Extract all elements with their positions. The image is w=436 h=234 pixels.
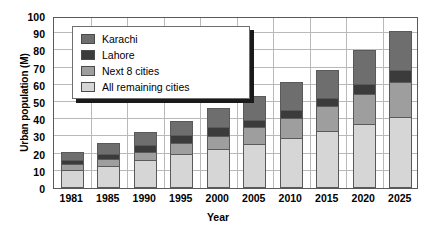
bar-segment	[316, 70, 339, 99]
x-tick-label: 1995	[163, 193, 200, 204]
bar-2025	[389, 31, 412, 188]
legend-item: Next 8 cities	[81, 63, 249, 79]
x-tick-label: 2000	[199, 193, 236, 204]
bar-2015	[316, 70, 339, 188]
y-tick-label: 60	[0, 81, 45, 92]
y-tick-label: 10	[0, 167, 45, 178]
bar-1995	[170, 121, 193, 188]
legend-label: Next 8 cities	[102, 66, 159, 77]
x-tick-label: 2005	[236, 193, 273, 204]
bar-segment	[389, 31, 412, 71]
legend-item: Karachi	[81, 31, 249, 47]
y-tick-label: 50	[0, 98, 45, 109]
bar-segment	[207, 149, 230, 188]
bar-segment	[280, 118, 303, 140]
legend-label: Lahore	[102, 50, 135, 61]
bar-segment	[134, 132, 157, 147]
bar-segment	[389, 117, 412, 188]
bar-2005	[243, 96, 266, 188]
legend-label: All remaining cities	[102, 82, 190, 93]
x-tick-label: 2025	[382, 193, 419, 204]
bar-segment	[134, 160, 157, 188]
y-tick-label: 0	[0, 184, 45, 195]
y-tick-label: 80	[0, 46, 45, 57]
x-tick-label: 1990	[126, 193, 163, 204]
bar-segment	[243, 144, 266, 188]
legend-swatch	[81, 66, 95, 76]
legend-swatch	[81, 50, 95, 60]
x-tick-label: 1985	[90, 193, 127, 204]
bar-segment	[170, 154, 193, 188]
bar-segment	[353, 50, 376, 85]
bar-1985	[97, 143, 120, 188]
bar-segment	[353, 94, 376, 125]
y-tick-label: 70	[0, 64, 45, 75]
y-tick-label: 100	[0, 12, 45, 23]
y-tick-label: 90	[0, 29, 45, 40]
legend-box: KarachiLahoreNext 8 citiesAll remaining …	[72, 26, 250, 99]
bar-1990	[134, 132, 157, 188]
x-tick-label: 2020	[345, 193, 382, 204]
bar-2020	[353, 50, 376, 188]
bar-segment	[353, 124, 376, 188]
bar-segment	[389, 82, 412, 118]
x-tick-label: 2015	[309, 193, 346, 204]
bar-segment	[61, 170, 84, 188]
y-tick-label: 30	[0, 132, 45, 143]
bar-segment	[316, 106, 339, 132]
legend-label: Karachi	[102, 34, 138, 45]
bar-1981	[61, 152, 84, 188]
legend-swatch	[81, 34, 95, 44]
bar-segment	[389, 70, 412, 84]
legend-item: Lahore	[81, 47, 249, 63]
bar-segment	[207, 108, 230, 128]
bar-segment	[170, 121, 193, 136]
bar-segment	[97, 166, 120, 188]
bar-segment	[280, 82, 303, 111]
y-tick-label: 40	[0, 115, 45, 126]
bar-segment	[243, 127, 266, 145]
plot-area: KarachiLahoreNext 8 citiesAll remaining …	[53, 17, 418, 189]
bar-2010	[280, 82, 303, 188]
x-tick-label: 1981	[53, 193, 90, 204]
legend-swatch	[81, 82, 95, 92]
legend: KarachiLahoreNext 8 citiesAll remaining …	[68, 24, 254, 105]
bar-2000	[207, 108, 230, 188]
x-axis-title: Year	[0, 211, 436, 223]
x-axis-tick-labels: 1981198519901995200020052010201520202025	[53, 193, 418, 209]
y-tick-label: 20	[0, 150, 45, 161]
x-tick-label: 2010	[272, 193, 309, 204]
chart-figure: Urban population (M) 0102030405060708090…	[0, 0, 436, 234]
bar-segment	[280, 138, 303, 188]
legend-item: All remaining cities	[81, 79, 249, 95]
bar-segment	[316, 131, 339, 188]
bar-segment	[207, 136, 230, 151]
